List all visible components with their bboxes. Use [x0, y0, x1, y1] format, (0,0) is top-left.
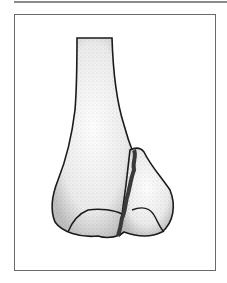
femur-illustration: [0, 0, 227, 283]
